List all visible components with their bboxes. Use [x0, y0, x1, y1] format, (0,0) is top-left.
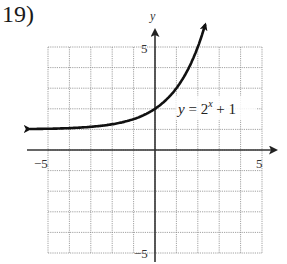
y-tick-min: −5	[134, 246, 148, 261]
equation-label: y = 2x + 1	[176, 98, 236, 117]
coordinate-plane: y −5 5 5 −5 y = 2x + 1	[0, 0, 287, 264]
x-tick-min: −5	[34, 156, 48, 171]
y-axis-label: y	[149, 9, 156, 23]
x-tick-max: 5	[256, 156, 263, 171]
y-tick-max: 5	[141, 41, 148, 56]
eq-base: = 2	[185, 101, 208, 117]
eq-y: y	[176, 101, 185, 117]
eq-rest: + 1	[213, 101, 236, 117]
